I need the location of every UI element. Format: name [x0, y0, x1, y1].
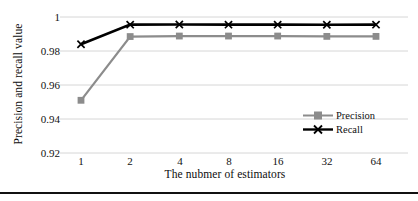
legend-item-precision: Precision	[303, 108, 375, 122]
data-series-layer	[77, 21, 379, 104]
series-line-precision	[81, 36, 376, 100]
legend-item-recall: Recall	[303, 122, 375, 136]
plot-area	[0, 0, 418, 201]
data-point-marker	[78, 97, 85, 104]
bottom-rule-divider	[0, 192, 418, 194]
square-marker-line-icon	[303, 110, 333, 121]
legend-label-precision: Precision	[336, 110, 375, 121]
chart-figure: Precision and recall value 1 0.98 0.96 0…	[0, 0, 418, 201]
data-point-marker	[274, 33, 281, 40]
series-precision	[78, 33, 380, 104]
x-marker-line-icon	[303, 124, 333, 135]
data-point-marker	[176, 33, 183, 40]
data-point-marker	[323, 33, 330, 40]
legend-label-recall: Recall	[336, 124, 363, 135]
data-point-marker	[373, 33, 380, 40]
data-point-marker	[127, 33, 134, 40]
chart-legend: Precision Recall	[303, 108, 375, 136]
data-point-marker	[225, 33, 232, 40]
